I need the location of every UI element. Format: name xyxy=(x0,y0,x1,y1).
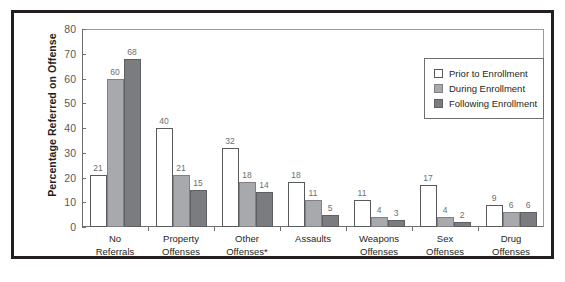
bar[interactable] xyxy=(222,148,239,227)
bar-value-label: 3 xyxy=(394,208,399,218)
bar-value-label: 15 xyxy=(193,178,202,188)
legend-swatch-icon-prior xyxy=(434,69,443,78)
bar-value-label: 18 xyxy=(242,170,251,180)
x-category-label: PropertyOffenses xyxy=(162,233,200,258)
y-tick-label-20: 20 xyxy=(52,172,76,184)
legend-swatch-icon-following xyxy=(434,99,443,108)
bar[interactable] xyxy=(520,212,537,227)
bar[interactable] xyxy=(388,220,405,227)
bar[interactable] xyxy=(256,192,273,227)
legend-item-following: Following Enrollment xyxy=(434,96,535,111)
bar-value-label: 21 xyxy=(93,163,102,173)
x-category-label: NoReferrals xyxy=(96,233,135,258)
bar-value-label: 21 xyxy=(176,163,185,173)
bar[interactable] xyxy=(90,175,107,227)
bar-group: 1143 xyxy=(354,29,405,227)
bar[interactable] xyxy=(190,190,207,227)
x-category-label-line2: Offenses xyxy=(426,246,464,259)
bar[interactable] xyxy=(454,222,471,227)
bar[interactable] xyxy=(107,79,124,228)
bar[interactable] xyxy=(288,182,305,227)
bar[interactable] xyxy=(437,217,454,227)
legend-label-during: During Enrollment xyxy=(449,83,525,94)
x-category-label-line1: Property xyxy=(162,233,200,246)
bar[interactable] xyxy=(486,205,503,227)
bar[interactable] xyxy=(371,217,388,227)
x-category-label-line1: Drug xyxy=(492,233,530,246)
legend-item-during: During Enrollment xyxy=(434,81,535,96)
x-tick-mark xyxy=(346,227,347,231)
x-category-label-line1: Other xyxy=(226,233,268,246)
bar[interactable] xyxy=(239,182,256,227)
bar-value-label: 5 xyxy=(328,203,333,213)
y-tick-label-60: 60 xyxy=(52,73,76,85)
x-tick-mark xyxy=(148,227,149,231)
x-tick-mark xyxy=(214,227,215,231)
bar-value-label: 2 xyxy=(460,210,465,220)
x-category-label-line1: Assaults xyxy=(295,233,331,246)
x-category-label: SexOffenses xyxy=(426,233,464,258)
x-tick-mark xyxy=(280,227,281,231)
x-category-label-line2: Referrals xyxy=(96,246,135,259)
figure-frame: Percentage Referred on Offense 010203040… xyxy=(11,10,554,259)
bar-group: 18115 xyxy=(288,29,339,227)
x-category-label-line2: Offenses* xyxy=(226,246,268,259)
x-category-label-line1: Weapons xyxy=(359,233,399,246)
bar-value-label: 60 xyxy=(110,67,119,77)
bar[interactable] xyxy=(124,59,141,227)
x-tick-mark xyxy=(412,227,413,231)
bar-value-label: 68 xyxy=(127,47,136,57)
bar-group: 402115 xyxy=(156,29,207,227)
bar-value-label: 14 xyxy=(259,180,268,190)
bar[interactable] xyxy=(322,215,339,227)
x-category-label-line2: Offenses xyxy=(359,246,399,259)
bar-value-label: 18 xyxy=(291,170,300,180)
y-tick-label-10: 10 xyxy=(52,196,76,208)
x-category-label-line1: No xyxy=(96,233,135,246)
legend-swatch-icon-during xyxy=(434,84,443,93)
bar-value-label: 9 xyxy=(492,193,497,203)
legend-item-prior: Prior to Enrollment xyxy=(434,66,535,81)
y-tick-label-40: 40 xyxy=(52,122,76,134)
x-tick-mark xyxy=(478,227,479,231)
x-category-label: WeaponsOffenses xyxy=(359,233,399,258)
bar[interactable] xyxy=(420,185,437,227)
y-axis-title: Percentage Referred on Offense xyxy=(46,15,58,215)
bar-value-label: 32 xyxy=(225,136,234,146)
bar[interactable] xyxy=(305,200,322,227)
chart-legend: Prior to Enrollment During Enrollment Fo… xyxy=(424,58,544,119)
bar-group: 321814 xyxy=(222,29,273,227)
y-tick-label-50: 50 xyxy=(52,97,76,109)
x-category-label: OtherOffenses* xyxy=(226,233,268,258)
bar[interactable] xyxy=(156,128,173,227)
y-tick-label-30: 30 xyxy=(52,147,76,159)
legend-label-following: Following Enrollment xyxy=(449,98,537,109)
bar-value-label: 6 xyxy=(509,200,514,210)
bar[interactable] xyxy=(173,175,190,227)
bar-value-label: 40 xyxy=(159,116,168,126)
bar-value-label: 11 xyxy=(309,188,318,198)
x-category-label-line2: Offenses xyxy=(492,246,530,259)
bar-value-label: 4 xyxy=(443,205,448,215)
bar-group: 216068 xyxy=(90,29,141,227)
x-category-label: Assaults xyxy=(295,233,331,246)
y-tick-label-80: 80 xyxy=(52,23,76,35)
y-tick-mark-0 xyxy=(82,227,86,228)
y-tick-label-70: 70 xyxy=(52,48,76,60)
bar[interactable] xyxy=(354,200,371,227)
bar-value-label: 6 xyxy=(526,200,531,210)
bar-value-label: 4 xyxy=(377,205,382,215)
x-category-label: DrugOffenses xyxy=(492,233,530,258)
x-axis-labels: NoReferralsPropertyOffensesOtherOffenses… xyxy=(82,233,544,269)
bar[interactable] xyxy=(503,212,520,227)
x-category-label-line1: Sex xyxy=(426,233,464,246)
x-category-label-line2: Offenses xyxy=(162,246,200,259)
bar-value-label: 11 xyxy=(358,188,367,198)
y-tick-label-0: 0 xyxy=(52,221,76,233)
legend-label-prior: Prior to Enrollment xyxy=(449,68,528,79)
bar-value-label: 17 xyxy=(423,173,432,183)
